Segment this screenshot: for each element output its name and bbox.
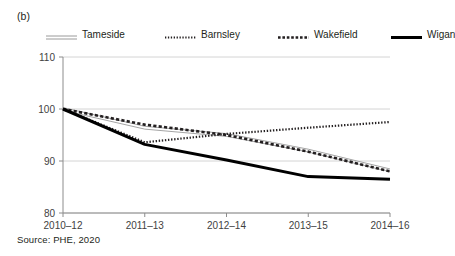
x-tick-label-4: 2014–16 bbox=[371, 220, 410, 231]
x-tick-label-0: 2010–12 bbox=[44, 220, 83, 231]
legend-label-wigan: Wigan bbox=[427, 29, 455, 40]
x-tick-label-2: 2012–14 bbox=[207, 220, 246, 231]
x-tick-label-3: 2013–15 bbox=[289, 220, 328, 231]
series-line-barnsley bbox=[63, 109, 390, 142]
x-tick-label-1: 2011–13 bbox=[126, 220, 165, 231]
y-tick-label-100: 100 bbox=[38, 104, 55, 115]
source-note: Source: PHE, 2020 bbox=[17, 234, 100, 245]
y-tick-label-80: 80 bbox=[44, 208, 56, 219]
y-tick-label-110: 110 bbox=[39, 52, 55, 63]
series-line-wakefield bbox=[63, 109, 390, 171]
y-tick-label-90: 90 bbox=[44, 156, 56, 167]
